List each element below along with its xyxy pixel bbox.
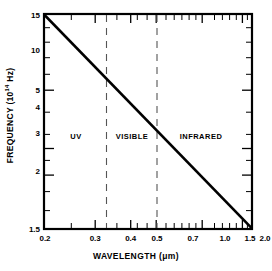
y-axis-title-tail: Hz) <box>5 67 15 84</box>
region-label-visible: VISIBLE <box>116 132 149 141</box>
x-tick-label-2p0: 2.0 <box>259 234 270 243</box>
y-axis-exponent: 14 <box>5 84 11 91</box>
x-tick-label-1p0: 1.0 <box>219 234 230 243</box>
y-tick-label-3: 3 <box>18 129 40 138</box>
x-axis-title: WAVELENGTH (μm) <box>0 251 272 261</box>
y-axis-title-text: FREQUENCY (10 <box>5 91 15 163</box>
y-tick-label-1p5: 1.5 <box>14 225 40 234</box>
region-label-infrared: INFRARED <box>180 132 223 141</box>
region-label-uv: UV <box>70 132 81 141</box>
x-tick-label-0p3: 0.3 <box>90 234 101 243</box>
x-tick-label-0p7: 0.7 <box>187 234 198 243</box>
y-tick-label-10: 10 <box>18 46 40 55</box>
x-tick-label-0p5: 0.5 <box>151 234 162 243</box>
x-tick-label-1p5: 1.5 <box>244 234 255 243</box>
x-tick-label-0p4: 0.4 <box>125 234 136 243</box>
frequency-wavelength-chart: FREQUENCY (1014 Hz) WAVELENGTH (μm) 15 1… <box>0 0 272 271</box>
y-axis-title: FREQUENCY (1014 Hz) <box>2 0 18 230</box>
x-tick-label-0p2: 0.2 <box>39 234 50 243</box>
y-tick-label-2: 2 <box>18 167 40 176</box>
y-tick-label-4: 4 <box>18 103 40 112</box>
y-tick-label-15: 15 <box>18 11 40 20</box>
y-tick-label-5: 5 <box>18 86 40 95</box>
